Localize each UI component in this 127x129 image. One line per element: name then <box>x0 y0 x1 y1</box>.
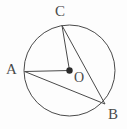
geometry-figure: C A B O <box>0 0 127 129</box>
vertex-label-a: A <box>6 62 17 77</box>
segment-AB <box>25 72 105 105</box>
vertex-label-b: B <box>108 107 118 122</box>
vertex-label-o: O <box>74 70 84 85</box>
vertex-label-c: C <box>55 4 65 19</box>
center-point-dot <box>66 67 72 73</box>
segment-AO <box>25 71 70 72</box>
